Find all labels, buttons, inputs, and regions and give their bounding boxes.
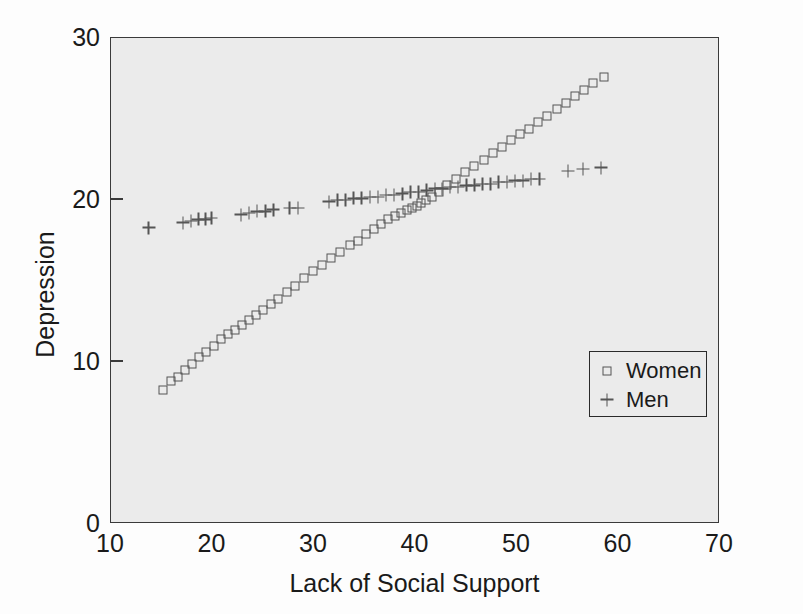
data-point-plus <box>283 202 296 215</box>
plot-area <box>110 37 719 523</box>
data-point-plus <box>576 163 589 176</box>
data-point-plus <box>388 189 401 202</box>
y-axis-title: Depression <box>31 145 60 445</box>
data-point-plus <box>525 172 538 185</box>
data-point-plus <box>192 213 205 226</box>
data-point-plus <box>199 213 212 226</box>
x-tick-label: 40 <box>401 529 429 558</box>
data-point-plus <box>396 187 409 200</box>
data-point-plus <box>444 181 457 194</box>
data-point-plus <box>492 176 505 189</box>
data-point-plus <box>380 189 393 202</box>
data-point-plus <box>508 174 521 187</box>
data-point-plus <box>517 174 530 187</box>
data-point-plus <box>561 164 574 177</box>
data-point-plus <box>420 184 433 197</box>
legend-item-women[interactable]: Women <box>590 356 706 385</box>
y-tick-label: 30 <box>0 23 114 52</box>
data-point-plus <box>371 190 384 203</box>
data-point-plus <box>234 208 247 221</box>
x-axis-title: Lack of Social Support <box>110 569 719 598</box>
legend: WomenMen <box>589 351 707 417</box>
data-point-plus <box>601 393 614 406</box>
data-point-plus <box>452 181 465 194</box>
data-point-plus <box>355 192 368 205</box>
data-point-plus <box>205 211 218 224</box>
data-point-plus <box>595 161 608 174</box>
x-tick-label: 60 <box>604 529 632 558</box>
x-tick-label: 50 <box>502 529 530 558</box>
data-point-plus <box>251 205 264 218</box>
data-point-plus <box>323 195 336 208</box>
legend-label: Women <box>626 360 701 382</box>
data-point-plus <box>259 205 272 218</box>
data-point-plus <box>460 179 473 192</box>
data-point-plus <box>404 185 417 198</box>
data-point-plus <box>142 221 155 234</box>
x-tick-label: 70 <box>705 529 733 558</box>
data-point-plus <box>331 194 344 207</box>
data-point-plus <box>291 202 304 215</box>
data-point-plus <box>243 206 256 219</box>
data-point-plus <box>428 182 441 195</box>
data-point-plus <box>435 182 448 195</box>
series-men <box>111 38 718 522</box>
data-point-plus <box>347 192 360 205</box>
legend-label: Men <box>626 389 669 411</box>
x-tick-label: 10 <box>96 529 124 558</box>
data-point-plus <box>500 176 513 189</box>
data-point-plus <box>412 185 425 198</box>
data-point-plus <box>468 179 481 192</box>
data-point-plus <box>185 215 198 228</box>
legend-marker-plus <box>598 391 616 409</box>
data-point-plus <box>177 216 190 229</box>
data-point-plus <box>363 190 376 203</box>
scatter-plot-figure: 0102030 10203040506070 Depression Lack o… <box>0 0 803 614</box>
legend-item-men[interactable]: Men <box>590 385 706 414</box>
data-point-plus <box>339 194 352 207</box>
data-point-plus <box>533 172 546 185</box>
legend-marker-square <box>598 362 616 380</box>
x-tick-label: 20 <box>198 529 226 558</box>
data-point-plus <box>484 177 497 190</box>
x-tick-label: 30 <box>299 529 327 558</box>
data-point-square <box>603 366 612 375</box>
data-point-plus <box>476 177 489 190</box>
data-point-plus <box>267 203 280 216</box>
